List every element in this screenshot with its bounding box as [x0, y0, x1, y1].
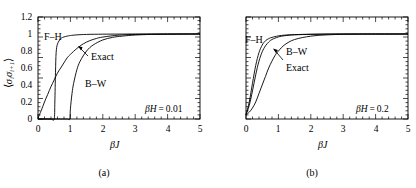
curve-label-fh: F–H [245, 35, 263, 45]
x-axis-ticks-top [246, 17, 408, 22]
panel-b: 0 1 2 3 4 5 βJ [208, 0, 416, 188]
curve-exact [246, 34, 408, 115]
curve-label-bw: B–W [85, 79, 106, 89]
param-value: 0.2 [377, 104, 389, 114]
curve-label-fh: F–H [44, 32, 62, 42]
y-axis-ticks-right [403, 17, 408, 119]
param-value: 0.01 [166, 104, 183, 114]
x-axis-ticks [38, 114, 200, 119]
plot-area-b [208, 0, 416, 188]
curve-fh [246, 34, 408, 115]
x-axis-ticks-top [38, 17, 200, 22]
curve-label-exact: Exact [286, 63, 309, 73]
y-axis-ticks-right [195, 17, 200, 119]
curve-label-exact: Exact [91, 52, 114, 62]
curve-bw [246, 34, 408, 115]
figure-container: ⟨σiσi+1⟩ 1.2 1 0.8 0.6 0.4 0.2 0 0 1 2 3… [0, 0, 416, 188]
plot-area-a [0, 0, 208, 188]
param-label-betaH: βH = 0.2 [356, 104, 389, 114]
param-label-betaH: βH = 0.01 [145, 104, 182, 114]
caption-a: (a) [0, 168, 208, 178]
curve-label-bw: B–W [286, 47, 307, 57]
caption-b: (b) [208, 168, 416, 178]
y-axis-ticks [38, 17, 43, 119]
x-axis-ticks [246, 114, 408, 119]
panel-a: ⟨σiσi+1⟩ 1.2 1 0.8 0.6 0.4 0.2 0 0 1 2 3… [0, 0, 208, 188]
